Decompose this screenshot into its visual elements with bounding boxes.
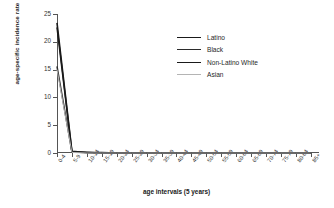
x-tick-label: 5-9 [72,153,82,163]
legend-item[interactable]: Black [177,44,258,57]
x-tick: 85+ [311,153,312,157]
legend-line-swatch [177,37,201,38]
y-tick-label: 20 [44,37,51,44]
y-tick-label: 10 [44,93,51,100]
legend-item[interactable]: Latino [177,31,258,44]
legend-label: Black [207,46,223,53]
y-axis-title: age-specific incidence rate [13,0,20,104]
y-tick-label: 25 [44,10,51,17]
x-tick: 10-14 [87,153,88,157]
x-axis-title: age intervals (5 years) [143,188,210,195]
legend-label: Non-Latino White [207,59,258,66]
series-line [57,70,311,153]
legend-line-swatch [177,74,201,75]
y-tick-label: 0 [47,149,51,156]
y-tick-label: 15 [44,65,51,72]
x-tick-label: 0-4 [57,153,67,163]
chart-figure: age-specific incidence rate 0510152025 0… [0,0,334,208]
legend-line-swatch [177,49,201,50]
legend-label: Latino [207,34,225,41]
x-tick: 5-9 [72,153,73,157]
legend-label: Asian [207,71,224,78]
y-tick-label: 5 [47,121,51,128]
legend-line-swatch [177,62,201,63]
legend-item[interactable]: Asian [177,69,258,82]
legend-item[interactable]: Non-Latino White [177,56,258,69]
x-tick-label: 85+ [311,152,321,163]
x-tick: 0-4 [57,153,58,157]
legend: LatinoBlackNon-Latino WhiteAsian [177,31,258,81]
